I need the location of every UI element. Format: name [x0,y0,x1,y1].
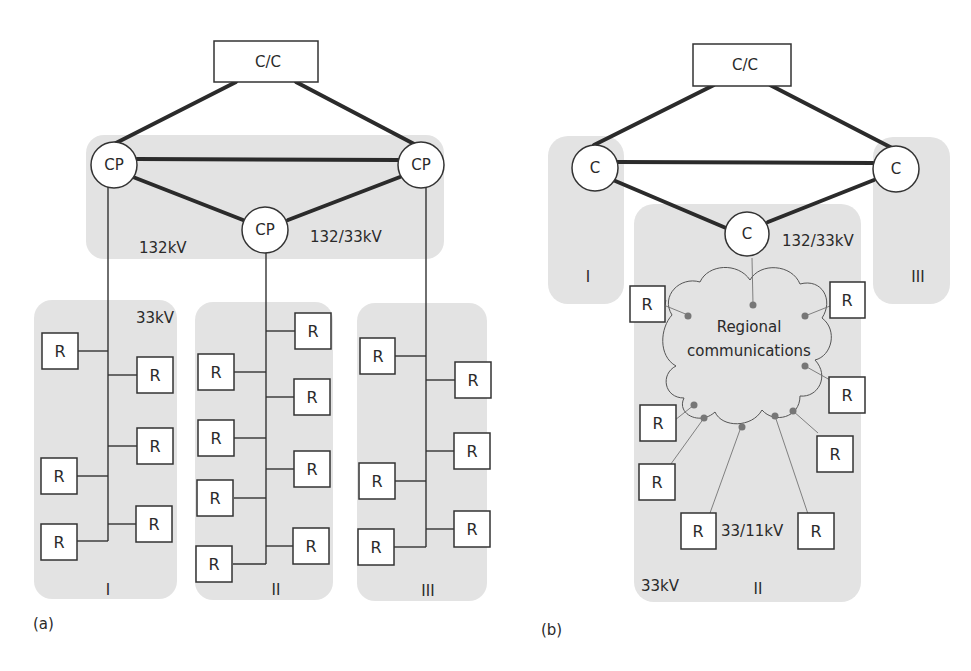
rtu-label: R [467,371,478,390]
region-b-i-label: I [586,268,590,286]
label-132-33kv: 132/33kV [310,228,382,246]
label-33-11kv: 33/11kV [721,522,784,540]
rtu-label: R [306,388,317,407]
controller-centre-label: C [742,225,752,243]
label-33kv: 33kV [136,309,175,327]
rtu-label: R [651,473,662,492]
rtu-label: R [692,522,703,541]
control-point-centre-label: CP [255,221,275,239]
rtu-label: R [810,522,821,541]
rtu-label: R [372,347,383,366]
rtu-label: R [466,442,477,461]
diagram-canvas: C/C CP CP CP 132kV 132/33kV 33kV R R R R [0,0,971,671]
rtu-label: R [466,520,477,539]
region-i-label: I [106,581,110,599]
rtu-label: R [370,538,381,557]
rtu-label: R [209,489,220,508]
control-centre-label: C/C [255,53,281,71]
controller-left-label: C [590,159,600,177]
link-cc-cp-left [114,82,236,144]
link-cc-c-left [594,85,714,145]
rtu-label: R [641,295,652,314]
rtu-label: R [148,515,159,534]
label-132-33kv-b: 132/33kV [782,232,854,250]
region-b-ii-label: II [754,580,763,598]
control-point-left-label: CP [104,156,124,174]
rtu-label: R [149,437,160,456]
rtu-label: R [306,460,317,479]
link-cc-c-right [770,85,892,148]
panel-a: C/C CP CP CP 132kV 132/33kV 33kV R R R R [33,41,491,633]
rtu-label: R [371,472,382,491]
rtu-label: R [53,467,64,486]
caption-a: (a) [33,615,54,633]
label-132kv: 132kV [139,239,187,257]
cloud-label-line2: communications [687,342,811,360]
rtu-label: R [307,322,318,341]
control-centre-label-b: C/C [732,56,758,74]
panel-b: C/C Regional communications [541,44,950,639]
rtu-label: R [210,429,221,448]
rtu-label: R [210,363,221,382]
cloud-label-line1: Regional [717,318,782,336]
rtu-label: R [829,445,840,464]
caption-b: (b) [541,621,562,639]
rtu-label: R [652,414,663,433]
link-c-left-right [617,162,873,163]
rtu-label: R [841,291,852,310]
rtu-label: R [53,533,64,552]
link-cp-left-right [137,159,399,160]
region-iii-label: III [421,582,434,600]
label-33kv-b: 33kV [641,577,680,595]
rtu-label: R [54,342,65,361]
control-point-right-label: CP [411,156,431,174]
region-ii-label: II [272,581,281,599]
controller-right-label: C [891,160,901,178]
rtu-label: R [208,555,219,574]
region-b-iii-label: III [911,268,924,286]
rtu-label: R [305,537,316,556]
rtu-label: R [841,386,852,405]
rtu-label: R [149,366,160,385]
